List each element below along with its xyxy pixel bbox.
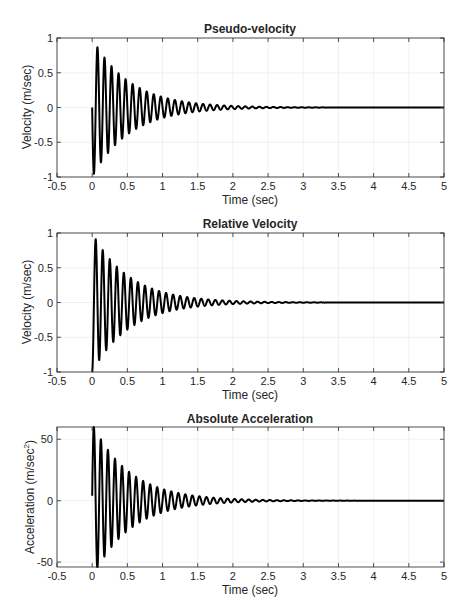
x-tick-label: 4 [371,570,377,582]
y-tick-label: -1 [43,366,53,378]
y-tick-label: -0.5 [34,136,53,148]
x-tick-label: 3 [300,375,306,387]
y-tick-label: 0.5 [38,67,53,79]
y-tick-label: -50 [37,556,53,568]
x-tick-label: 4 [371,375,377,387]
x-tick-label: 0 [89,375,95,387]
x-tick-label: 4 [371,180,377,192]
relative-velocity-plot: -0.500.511.522.533.544.55-1-0.500.51 Rel… [20,217,447,402]
y-tick-label: -0.5 [34,331,53,343]
absolute-acceleration-plot: -0.500.511.522.533.544.55-50050 Absolute… [22,412,447,597]
x-axis-label: Time (sec) [222,193,278,207]
x-tick-label: 3 [300,180,306,192]
x-tick-label: 4.5 [401,180,416,192]
plot-title: Relative Velocity [203,217,298,231]
x-tick-label: 2.5 [260,180,275,192]
x-tick-label: 1 [159,375,165,387]
x-tick-label: 0.5 [120,570,135,582]
x-tick-label: 4.5 [401,570,416,582]
y-axis-label: Velocity (m/sec) [20,260,34,345]
y-tick-label: 0 [47,297,53,309]
y-tick-label: 50 [41,433,53,445]
axes-box [57,427,444,567]
x-tick-label: 0.5 [120,180,135,192]
plot-title: Absolute Acceleration [187,412,313,426]
y-tick-label: -1 [43,171,53,183]
y-tick-label: 0 [47,495,53,507]
x-axis-label: Time (sec) [222,583,278,597]
y-axis-label-main: Acceleration (m/sec [23,449,37,554]
x-tick-label: 4.5 [401,375,416,387]
x-tick-label: 3.5 [331,180,346,192]
y-axis-label: Velocity (m/sec) [20,65,34,150]
y-axis-label: Acceleration (m/sec2) [22,440,37,554]
x-tick-label: 2 [230,570,236,582]
x-tick-label: 2 [230,180,236,192]
x-tick-label: -0.5 [48,570,67,582]
x-tick-label: 0 [89,180,95,192]
plot-title: Pseudo-velocity [204,22,296,36]
x-tick-label: 1.5 [190,375,205,387]
x-tick-label: 1.5 [190,570,205,582]
x-tick-label: 0.5 [120,375,135,387]
x-tick-label: 2.5 [260,570,275,582]
pseudo-velocity-plot: -0.500.511.522.533.544.55-1-0.500.51 Pse… [20,22,447,207]
y-tick-label: 0 [47,102,53,114]
x-tick-label: 0 [89,570,95,582]
x-tick-label: 3.5 [331,570,346,582]
x-axis-label: Time (sec) [222,388,278,402]
x-tick-label: 1 [159,570,165,582]
y-tick-label: 1 [47,227,53,239]
x-tick-label: 3 [300,570,306,582]
x-tick-label: 2.5 [260,375,275,387]
figure: -0.500.511.522.533.544.55-1-0.500.51 Pse… [0,0,467,614]
x-tick-label: 5 [441,375,447,387]
x-tick-label: 5 [441,180,447,192]
y-tick-label: 1 [47,32,53,44]
x-tick-label: 3.5 [331,375,346,387]
x-tick-label: 2 [230,375,236,387]
x-tick-label: 1 [159,180,165,192]
y-axis-label-suffix: ) [23,440,37,444]
x-tick-label: 5 [441,570,447,582]
y-tick-label: 0.5 [38,262,53,274]
x-tick-label: 1.5 [190,180,205,192]
